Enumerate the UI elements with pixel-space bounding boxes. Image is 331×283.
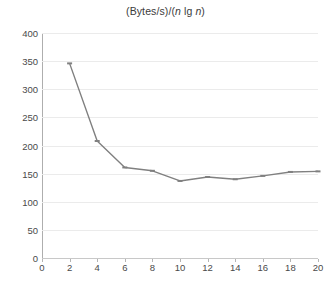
data-point-marker-x2: [67, 62, 72, 64]
data-point-marker-x20: [316, 170, 321, 172]
y-tick-label-50: 50: [4, 224, 38, 235]
x-tick-label-14: 14: [230, 262, 241, 273]
series-polyline: [70, 63, 318, 181]
x-tick-label-8: 8: [150, 262, 155, 273]
y-tick-label-350: 350: [4, 56, 38, 67]
y-tick-label-250: 250: [4, 112, 38, 123]
y-tick-label-300: 300: [4, 84, 38, 95]
data-point-marker-x4: [95, 140, 100, 142]
x-tick-label-2: 2: [67, 262, 72, 273]
title-segment: lg: [181, 5, 195, 17]
x-tick-label-4: 4: [95, 262, 100, 273]
x-tick-label-16: 16: [258, 262, 269, 273]
data-point-marker-x8: [150, 170, 155, 172]
x-tick-label-6: 6: [122, 262, 127, 273]
data-point-marker-x12: [205, 176, 210, 178]
x-tick-label-18: 18: [285, 262, 296, 273]
data-point-marker-x16: [260, 175, 265, 177]
data-point-marker-x6: [122, 166, 127, 168]
y-tick-label-200: 200: [4, 140, 38, 151]
x-tick-label-12: 12: [202, 262, 213, 273]
x-axis-tick-labels: 02468101214161820: [42, 262, 318, 278]
data-point-marker-x10: [178, 180, 183, 182]
title-segment: ): [201, 5, 205, 17]
y-tick-label-150: 150: [4, 168, 38, 179]
y-axis-tick-labels: 050100150200250300350400: [0, 33, 38, 258]
data-point-marker-x14: [233, 178, 238, 180]
chart-title: (Bytes/s)/(n lg n): [0, 5, 331, 17]
data-series-line: [42, 33, 318, 258]
y-tick-label-400: 400: [4, 28, 38, 39]
title-segment: (Bytes/s)/(: [126, 5, 175, 17]
plot-area: [42, 33, 318, 258]
y-tick-label-100: 100: [4, 196, 38, 207]
x-tick-label-0: 0: [39, 262, 44, 273]
data-point-marker-x18: [288, 171, 293, 173]
x-tick-label-20: 20: [313, 262, 324, 273]
x-tick-label-10: 10: [175, 262, 186, 273]
chart-container: (Bytes/s)/(n lg n) 050100150200250300350…: [0, 0, 331, 283]
y-tick-label-0: 0: [4, 253, 38, 264]
